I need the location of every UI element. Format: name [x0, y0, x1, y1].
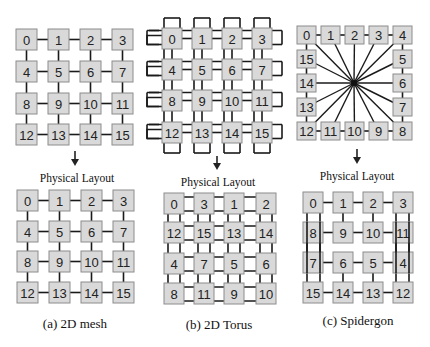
node-label: 0 [168, 32, 175, 47]
node-label: 9 [55, 97, 62, 112]
node-label: 12 [299, 124, 313, 139]
router-node-12: 12 [297, 122, 316, 140]
router-node-10: 10 [256, 283, 276, 304]
node-label: 11 [197, 287, 211, 302]
router-node-9: 9 [369, 122, 388, 140]
router-node-11: 11 [252, 90, 272, 111]
node-label: 5 [230, 257, 237, 272]
node-label: 10 [84, 255, 98, 270]
router-node-2: 2 [345, 26, 364, 44]
router-node-14: 14 [80, 124, 101, 145]
router-node-9: 9 [49, 251, 70, 272]
node-label: 5 [55, 65, 62, 80]
router-node-7: 7 [113, 221, 134, 242]
node-label: 8 [168, 94, 175, 109]
router-node-12: 12 [393, 282, 413, 303]
router-node-2: 2 [256, 193, 276, 214]
router-node-3: 3 [369, 26, 388, 44]
router-node-6: 6 [333, 252, 353, 273]
node-label: 13 [227, 226, 241, 241]
router-node-15: 15 [252, 122, 272, 143]
spidergon-physical-layout-label: Physical Layout [320, 170, 395, 183]
router-node-1: 1 [333, 192, 353, 213]
node-label: 10 [83, 97, 97, 112]
node-label: 13 [299, 100, 313, 115]
router-node-11: 11 [321, 122, 340, 140]
node-label: 15 [197, 226, 211, 241]
wraparound-link [147, 36, 162, 45]
down-arrow-icon [71, 151, 79, 166]
node-label: 4 [168, 63, 175, 78]
node-label: 2 [88, 194, 95, 209]
node-label: 15 [115, 128, 129, 143]
router-node-7: 7 [194, 253, 214, 274]
router-node-9: 9 [333, 222, 353, 243]
router-node-12: 12 [17, 282, 38, 303]
node-label: 8 [24, 255, 31, 270]
router-node-6: 6 [393, 74, 412, 92]
router-node-10: 10 [80, 93, 101, 114]
node-label: 8 [309, 226, 316, 241]
router-node-10: 10 [81, 251, 102, 272]
router-node-6: 6 [256, 253, 276, 274]
router-node-5: 5 [49, 221, 70, 242]
node-label: 15 [306, 286, 320, 301]
node-label: 6 [262, 257, 269, 272]
node-label: 6 [339, 256, 346, 271]
node-label: 1 [56, 194, 63, 209]
node-label: 5 [56, 225, 63, 240]
node-label: 15 [299, 52, 313, 67]
router-node-1: 1 [48, 29, 69, 50]
node-label: 6 [88, 225, 95, 240]
router-node-4: 4 [164, 253, 184, 274]
router-node-11: 11 [112, 93, 133, 114]
node-label: 5 [198, 63, 205, 78]
router-node-7: 7 [252, 59, 272, 80]
node-label: 9 [339, 226, 346, 241]
node-label: 3 [119, 33, 126, 48]
router-node-2: 2 [81, 190, 102, 211]
node-label: 12 [165, 126, 179, 141]
router-node-14: 14 [81, 282, 102, 303]
torus-logical-diagram: 0123456789101112131415 [147, 18, 282, 153]
router-node-3: 3 [194, 193, 214, 214]
mesh-caption: (a) 2D mesh [43, 316, 108, 331]
node-label: 5 [369, 256, 376, 271]
spidergon-logical-diagram: 0123456789101112131415 [297, 26, 412, 140]
router-node-10: 10 [363, 222, 383, 243]
node-label: 7 [119, 65, 126, 80]
node-label: 11 [396, 226, 410, 241]
node-label: 0 [170, 197, 177, 212]
router-node-11: 11 [194, 283, 214, 304]
router-node-9: 9 [48, 93, 69, 114]
node-label: 3 [375, 28, 382, 43]
node-label: 7 [258, 63, 265, 78]
router-node-8: 8 [17, 251, 38, 272]
torus-physical-diagram: 0312121513144756811910 [164, 193, 276, 304]
router-node-12: 12 [16, 124, 37, 145]
router-node-4: 4 [162, 59, 182, 80]
node-label: 6 [399, 76, 406, 91]
node-label: 7 [309, 256, 316, 271]
router-node-15: 15 [297, 50, 316, 68]
node-label: 1 [55, 33, 62, 48]
node-label: 2 [87, 33, 94, 48]
torus-caption: (b) 2D Torus [186, 317, 253, 332]
router-node-10: 10 [222, 90, 242, 111]
router-node-3: 3 [112, 29, 133, 50]
node-label: 11 [116, 97, 130, 112]
router-node-11: 11 [113, 251, 134, 272]
router-node-4: 4 [393, 26, 412, 44]
router-node-8: 8 [16, 93, 37, 114]
router-node-14: 14 [333, 282, 353, 303]
node-label: 14 [259, 226, 273, 241]
network-topology-figure: 0123456789101112131415 01234567891011121… [0, 0, 430, 347]
node-label: 14 [299, 76, 313, 91]
mesh-logical-diagram: 0123456789101112131415 [16, 29, 133, 145]
router-node-1: 1 [224, 193, 244, 214]
router-node-13: 13 [192, 122, 212, 143]
node-label: 12 [167, 226, 181, 241]
node-label: 12 [20, 286, 34, 301]
router-node-4: 4 [16, 61, 37, 82]
router-node-2: 2 [222, 28, 242, 49]
